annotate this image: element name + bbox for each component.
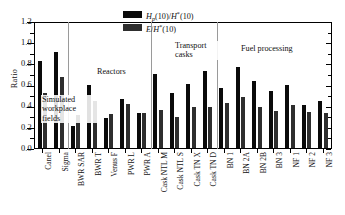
annotation-simulated-workplace-fields: Simulated workplace fields	[41, 95, 99, 123]
x-axis-tick-label: BN 1	[227, 152, 235, 168]
bar	[291, 105, 295, 148]
y-axis-tick-label: 1.2	[6, 18, 32, 26]
x-axis-tick-label: NF 1	[293, 152, 301, 167]
x-axis-tick-label: Sigma	[62, 152, 70, 171]
x-axis-tick-label: BN 3	[276, 152, 284, 168]
y-axis-tick-label: 0.0	[6, 145, 32, 153]
x-axis-tick	[290, 149, 291, 153]
legend-label-e-h10: E/H*(10)	[146, 22, 176, 35]
x-axis-tick-label: Venus F	[111, 152, 119, 177]
bar	[186, 84, 190, 148]
x-axis-tick-label: Canel	[45, 152, 53, 170]
y-axis-tick-label: 0.4	[6, 102, 32, 110]
bar	[208, 107, 212, 148]
bar	[285, 85, 289, 149]
bar	[252, 81, 256, 148]
x-axis-tick-label: Cask TN X	[194, 152, 202, 186]
bar	[203, 71, 207, 148]
bar	[219, 88, 223, 148]
annotation-line: casks	[175, 50, 193, 59]
bar	[159, 110, 163, 148]
bar	[175, 117, 179, 148]
bar	[109, 114, 113, 148]
bar	[120, 99, 124, 148]
x-axis-tick	[257, 149, 258, 153]
bar	[126, 104, 130, 148]
x-axis-tick	[125, 149, 126, 153]
annotation-line: Transport	[175, 41, 207, 50]
x-axis-tick-label: Cask NTL S	[177, 152, 185, 190]
bar	[241, 97, 245, 148]
bar	[71, 126, 75, 148]
x-axis-tick	[158, 149, 159, 153]
x-axis-tick-label: Cask NTL M	[161, 152, 169, 192]
x-axis-tick-label: NF 2	[309, 152, 317, 167]
bar	[274, 111, 278, 148]
bar	[258, 107, 262, 148]
bar	[192, 107, 196, 148]
y-axis-tick-label: 0.8	[6, 60, 32, 68]
legend-swatch-e-h10	[123, 24, 142, 32]
annotation-reactors: Reactors	[96, 67, 127, 76]
x-axis-tick	[59, 149, 60, 153]
x-axis-tick-label: BWR T	[95, 152, 103, 176]
annotation-fuel-processing: Fuel processing	[240, 44, 294, 53]
plot-right-spine	[331, 22, 332, 149]
bar	[170, 93, 174, 148]
bar	[236, 67, 240, 148]
y-axis-tick-label: 0.6	[6, 81, 32, 89]
x-axis-tick	[224, 149, 225, 153]
annotation-transport-casks: Transport casks	[174, 41, 220, 60]
annotation-line: Simulated	[42, 95, 75, 104]
x-axis-tick	[92, 149, 93, 153]
y-axis-title: Ratio	[10, 49, 19, 109]
annotation-line: workplace	[42, 104, 76, 113]
y-axis-tick-right	[326, 149, 331, 150]
legend-swatch-hp10	[123, 11, 142, 19]
chart-figure: Ratio 0.00.20.40.60.81.01.2 Simulated wo…	[0, 0, 345, 215]
bar	[104, 118, 108, 148]
x-axis-tick-label: BWR SAR	[78, 152, 86, 186]
x-axis-tick	[191, 149, 192, 153]
y-axis-tick-label: 1.0	[6, 39, 32, 47]
bar	[302, 105, 306, 148]
bar	[269, 91, 273, 148]
bar	[324, 113, 328, 148]
y-axis-tick-label: 0.2	[6, 124, 32, 132]
bar	[137, 113, 141, 148]
x-axis-tick-label: PWR A	[144, 152, 152, 175]
x-axis-tick-label: PWR L	[128, 152, 136, 175]
x-axis-tick-label: BN 2B	[260, 152, 268, 173]
x-axis-tick	[323, 149, 324, 153]
x-axis-tick-label: Cask TN D	[210, 152, 218, 186]
bar	[225, 103, 229, 148]
bar	[318, 101, 322, 148]
group-separator	[68, 22, 69, 149]
bar	[142, 113, 146, 148]
x-axis-tick-label: BN 2A	[243, 152, 251, 174]
x-axis-tick-label: NF 3	[326, 152, 334, 167]
annotation-line: fields	[42, 114, 60, 123]
group-separator	[151, 22, 152, 149]
plot-area: Simulated workplace fields Reactors Tran…	[34, 22, 331, 149]
bar	[307, 112, 311, 148]
bar	[153, 74, 157, 148]
